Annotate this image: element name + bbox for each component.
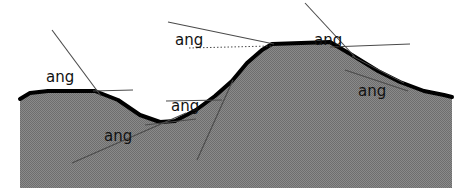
- terrain-angle-diagram: angangangangangang: [0, 0, 472, 196]
- angle-left-plateau-label: ang: [46, 68, 74, 86]
- diagram-canvas: angangangangangang: [0, 0, 472, 196]
- angle-left-plateau: ang: [46, 30, 133, 96]
- angle-left-plateau-reference-line: [93, 90, 133, 91]
- terrain-fill: [20, 42, 452, 188]
- angle-ridge-right-shoulder: ang: [305, 3, 410, 57]
- angle-ridge-left-shoulder: ang: [168, 22, 274, 49]
- angle-ridge-left-shoulder-label: ang: [175, 31, 203, 49]
- angle-left-plateau-inclined-line: [52, 30, 101, 96]
- angle-ridge-right-shoulder-label: ang: [314, 31, 342, 49]
- angle-right-slope-label: ang: [358, 82, 386, 100]
- angle-valley-bottom-label: ang: [104, 127, 132, 145]
- angle-valley-right-flank-label: ang: [171, 97, 199, 115]
